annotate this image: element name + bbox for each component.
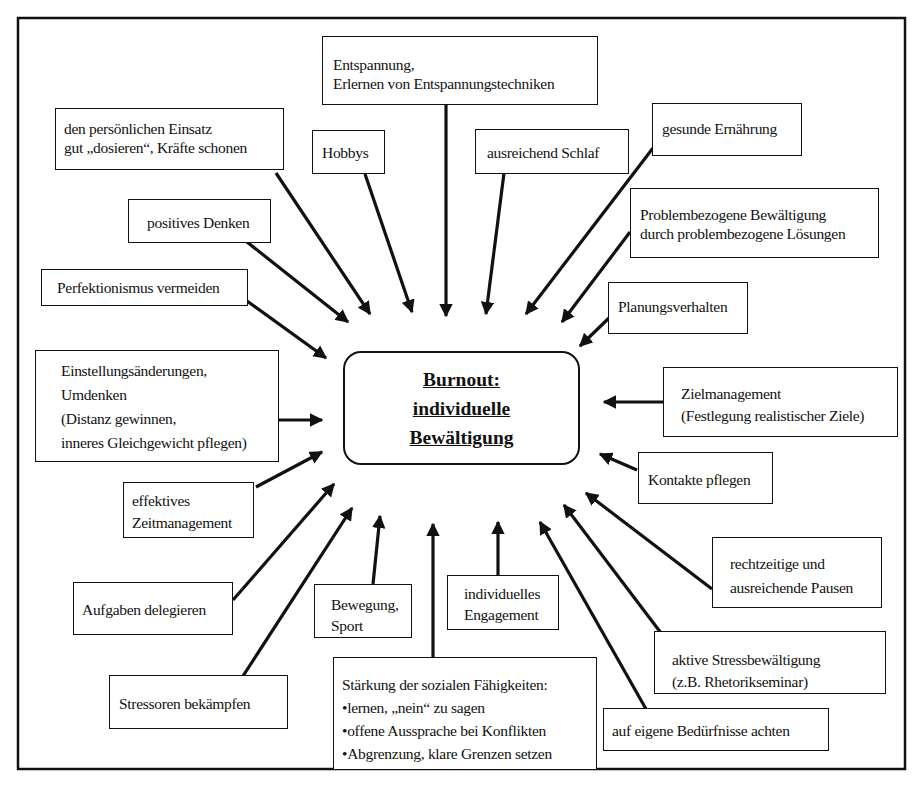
arrow-einsatz <box>276 173 370 314</box>
box-text: Sport <box>331 615 411 636</box>
box-text: Einstellungsänderungen, <box>61 359 278 383</box>
box-text: (Distanz gewinnen, <box>61 407 278 431</box>
box-schlaf: ausreichend Schlaf <box>475 129 629 174</box>
box-text: Entspannung, <box>333 55 597 74</box>
box-planung: Planungsverhalten <box>608 282 748 334</box>
box-zeit: effektives Zeitmanagement <box>123 482 254 538</box>
box-text: Stressoren bekämpfen <box>119 694 287 713</box>
box-text: Umdenken <box>61 383 278 407</box>
box-text: (z.B. Rhetorikseminar) <box>672 671 885 693</box>
box-text: (Festlegung realistischer Ziele) <box>681 405 897 427</box>
box-text: Kontakte pflegen <box>648 470 772 489</box>
box-text: Problembezogene Bewältigung <box>640 205 878 224</box>
box-denken: positives Denken <box>128 199 271 243</box>
box-text: auf eigene Bedürfnisse achten <box>612 721 828 740</box>
box-einsatz: den persönlichen Einsatz gut „dosieren“,… <box>55 108 284 170</box>
center-line-1: Burnout: <box>345 365 578 394</box>
arrow-planung <box>580 318 609 346</box>
center-line-2: individuelle <box>345 394 578 423</box>
box-delegieren: Aufgaben delegieren <box>73 582 233 635</box>
box-perfektionismus: Perfektionismus vermeiden <box>41 269 248 306</box>
arrow-kontakte <box>600 454 637 470</box>
box-ziel: Zielmanagement (Festlegung realistischer… <box>663 367 898 437</box>
box-entspannung: Entspannung, Erlernen von Entspannungste… <box>322 36 598 105</box>
box-stress: aktive Stressbewältigung (z.B. Rhetoriks… <box>654 631 886 694</box>
arrow-bewegung <box>373 516 380 584</box>
box-ernaehrung: gesunde Ernährung <box>652 103 802 156</box>
box-text: gut „dosieren“, Kräfte schonen <box>64 138 283 157</box>
box-text: Stärkung der sozialen Fähigkeiten: <box>342 673 596 696</box>
box-text: aktive Stressbewältigung <box>672 649 885 671</box>
box-problem: Problembezogene Bewältigung durch proble… <box>630 188 879 258</box>
arrow-stress <box>564 505 661 633</box>
box-stressoren: Stressoren bekämpfen <box>109 675 288 729</box>
central-topic: Burnout: individuelle Bewältigung <box>343 351 580 465</box>
box-text: •Abgrenzung, klare Grenzen setzen <box>342 742 596 765</box>
box-pausen: rechtzeitige und ausreichende Pausen <box>712 537 882 608</box>
arrow-hobbys <box>365 174 412 312</box>
box-text: •lernen, „nein“ zu sagen <box>342 696 596 719</box>
box-text: Hobbys <box>322 143 384 162</box>
box-text: inneres Gleichgewicht pflegen) <box>61 431 278 455</box>
box-text: Zielmanagement <box>681 383 897 405</box>
box-text: rechtzeitige und <box>730 552 881 576</box>
box-engagement: individuelles Engagement <box>447 575 559 630</box>
box-beduerfnisse: auf eigene Bedürfnisse achten <box>603 708 829 751</box>
box-text: Zeitmanagement <box>132 512 253 534</box>
box-text: Planungsverhalten <box>618 297 747 316</box>
box-kontakte: Kontakte pflegen <box>638 452 773 504</box>
box-bewegung: Bewegung, Sport <box>314 584 412 638</box>
box-text: effektives <box>132 490 253 512</box>
box-hobbys: Hobbys <box>312 130 385 174</box>
box-text: Aufgaben delegieren <box>82 600 232 619</box>
box-text: Bewegung, <box>331 594 411 615</box>
arrow-pausen <box>586 493 712 589</box>
box-text: Engagement <box>464 604 558 625</box>
box-einstellung: Einstellungsänderungen, Umdenken (Distan… <box>35 350 279 462</box>
box-text: Perfektionismus vermeiden <box>57 278 247 297</box>
arrow-schlaf <box>486 173 504 314</box>
box-text: ausreichend Schlaf <box>487 143 628 162</box>
box-text: ausreichende Pausen <box>730 576 881 600</box>
box-text: durch problembezogene Lösungen <box>640 224 878 243</box>
box-text: gesunde Ernährung <box>662 119 801 138</box>
box-text: individuelles <box>464 583 558 604</box>
box-sozial: Stärkung der sozialen Fähigkeiten: •lern… <box>333 657 597 770</box>
box-text: positives Denken <box>147 213 270 232</box>
box-text: •offene Aussprache bei Konflikten <box>342 719 596 742</box>
box-text: Erlernen von Entspannungstechniken <box>333 74 597 93</box>
box-text: den persönlichen Einsatz <box>64 119 283 138</box>
center-line-3: Bewältigung <box>345 423 578 452</box>
